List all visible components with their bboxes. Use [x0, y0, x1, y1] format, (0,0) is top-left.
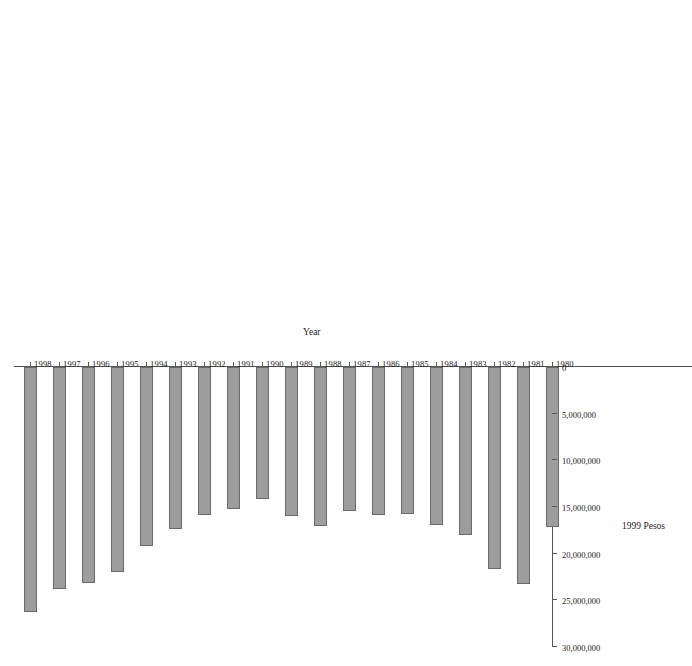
bar-1992: [198, 367, 211, 515]
category-label-1988: 1988: [324, 359, 342, 369]
y-axis-title: 1999 Pesos: [622, 521, 665, 531]
value-label-5000000: 5,000,000: [562, 410, 596, 420]
category-label-1981: 1981: [527, 359, 545, 369]
category-tick-1994: [146, 362, 147, 366]
bar-1988: [314, 367, 327, 526]
bar-1985: [401, 367, 414, 514]
category-label-1998: 1998: [34, 359, 52, 369]
bar-1997: [53, 367, 66, 589]
category-label-1986: 1986: [382, 359, 400, 369]
value-tick-25000000: [552, 599, 557, 600]
category-label-1991: 1991: [237, 359, 255, 369]
category-tick-1996: [88, 362, 89, 366]
category-tick-1982: [494, 362, 495, 366]
value-label-20000000: 20,000,000: [562, 550, 600, 560]
bar-1986: [372, 367, 385, 515]
bar-1991: [227, 367, 240, 509]
category-label-1993: 1993: [179, 359, 197, 369]
bar-1981: [517, 367, 530, 584]
value-tick-20000000: [552, 553, 557, 554]
category-tick-1984: [436, 362, 437, 366]
bar-1987: [343, 367, 356, 511]
category-tick-1990: [262, 362, 263, 366]
value-label-30000000: 30,000,000: [562, 643, 600, 653]
bar-1980: [546, 367, 559, 527]
bar-1982: [488, 367, 501, 569]
category-label-1994: 1994: [150, 359, 168, 369]
category-tick-1981: [523, 362, 524, 366]
value-tick-30000000: [552, 646, 557, 647]
category-label-1995: 1995: [121, 359, 139, 369]
category-tick-1993: [175, 362, 176, 366]
bar-1995: [111, 367, 124, 572]
category-label-1996: 1996: [92, 359, 110, 369]
category-tick-1991: [233, 362, 234, 366]
value-tick-5000000: [552, 413, 557, 414]
category-label-1989: 1989: [295, 359, 313, 369]
value-label-15000000: 15,000,000: [562, 503, 600, 513]
bar-1984: [430, 367, 443, 525]
bar-1998: [24, 367, 37, 612]
category-label-1984: 1984: [440, 359, 458, 369]
category-tick-1985: [407, 362, 408, 366]
category-tick-1992: [204, 362, 205, 366]
bar-1983: [459, 367, 472, 535]
value-label-10000000: 10,000,000: [562, 456, 600, 466]
value-tick-10000000: [552, 459, 557, 460]
value-tick-15000000: [552, 506, 557, 507]
category-tick-1995: [117, 362, 118, 366]
category-tick-1998: [30, 362, 31, 366]
value-label-25000000: 25,000,000: [562, 596, 600, 606]
x-axis-title: Year: [303, 327, 321, 337]
category-label-1985: 1985: [411, 359, 429, 369]
category-label-1983: 1983: [469, 359, 487, 369]
category-tick-1988: [320, 362, 321, 366]
category-tick-1997: [59, 362, 60, 366]
category-tick-1989: [291, 362, 292, 366]
bar-1989: [285, 367, 298, 516]
category-label-1992: 1992: [208, 359, 226, 369]
value-label-0: 0: [562, 363, 566, 373]
value-tick-0: [552, 366, 557, 367]
category-tick-1987: [349, 362, 350, 366]
bar-1993: [169, 367, 182, 529]
bar-1994: [140, 367, 153, 546]
category-tick-1983: [465, 362, 466, 366]
category-tick-1986: [378, 362, 379, 366]
bar-1990: [256, 367, 269, 499]
bar-1996: [82, 367, 95, 583]
category-label-1990: 1990: [266, 359, 284, 369]
category-label-1987: 1987: [353, 359, 371, 369]
category-label-1982: 1982: [498, 359, 516, 369]
category-label-1997: 1997: [63, 359, 81, 369]
